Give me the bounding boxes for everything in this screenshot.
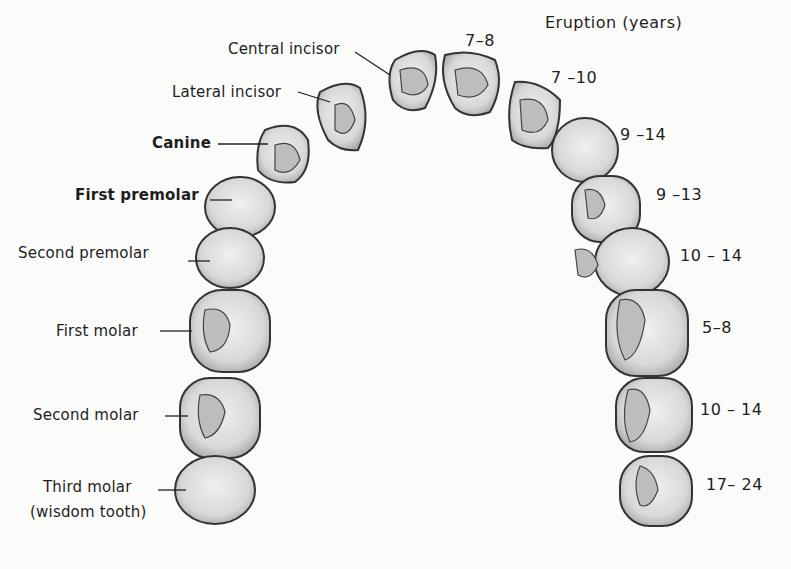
tooth-second-premolar-left xyxy=(196,228,264,288)
label-central-incisor: Central incisor xyxy=(228,40,340,58)
eruption-first-molar: 5–8 xyxy=(702,318,732,337)
tooth-third-molar-left xyxy=(175,456,255,524)
tooth-first-premolar-left xyxy=(205,177,275,237)
label-lateral-incisor: Lateral incisor xyxy=(172,83,281,101)
label-third-molar: Third molar xyxy=(43,478,132,496)
eruption-title: Eruption (years) xyxy=(545,13,682,32)
tooth-first-molar-left xyxy=(190,290,270,372)
eruption-lateral-incisor: 7 –10 xyxy=(551,68,597,87)
eruption-first-premolar: 9 –13 xyxy=(656,185,702,204)
tooth-second-premolar-right xyxy=(595,228,669,296)
label-first-premolar: First premolar xyxy=(75,186,199,204)
eruption-third-molar: 17– 24 xyxy=(706,475,763,494)
leader-central-incisor xyxy=(355,52,390,75)
eruption-central-incisor: 7–8 xyxy=(465,31,495,50)
label-second-premolar: Second premolar xyxy=(18,244,149,262)
label-canine: Canine xyxy=(152,134,211,152)
label-second-molar: Second molar xyxy=(33,406,139,424)
tooth-canine-right xyxy=(552,118,618,182)
eruption-canine: 9 –14 xyxy=(620,125,666,144)
label-wisdom-tooth: (wisdom tooth) xyxy=(30,503,146,521)
eruption-second-premolar: 10 – 14 xyxy=(680,246,742,265)
eruption-second-molar: 10 – 14 xyxy=(700,400,762,419)
label-first-molar: First molar xyxy=(56,322,138,340)
